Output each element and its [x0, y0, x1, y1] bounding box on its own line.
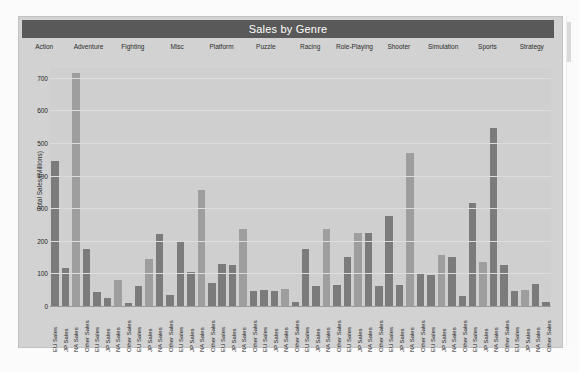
x-tick-cell: JP Sales [187, 306, 198, 352]
bar-racing-eu[interactable] [302, 249, 310, 306]
bar-action-eu[interactable] [51, 161, 59, 306]
y-tick-200: 200 [22, 237, 48, 244]
x-tick-label: NA Sales [157, 306, 163, 352]
x-tick-label: EU Sales [94, 306, 100, 352]
bar-puzzle-jp[interactable] [271, 291, 279, 306]
screenshot-root: Sales by Genre ActionAdventureFightingMi… [0, 0, 579, 372]
x-tick-label: Other Sales [420, 306, 426, 352]
bar-sports-jp[interactable] [479, 262, 487, 306]
bar-role-playing-eu[interactable] [344, 257, 352, 306]
x-tick-label: NA Sales [535, 306, 541, 352]
bar-fighting-na[interactable] [156, 234, 164, 306]
y-tick-100: 100 [22, 270, 48, 277]
x-tick-cell: NA Sales [197, 306, 208, 352]
bar-adventure-jp[interactable] [104, 298, 112, 306]
bar-fighting-jp[interactable] [145, 259, 153, 306]
bar-slot [259, 68, 269, 306]
vertical-scrollbar-thumb[interactable] [567, 22, 571, 62]
y-axis-label: Total Sales (Millions) [36, 151, 43, 211]
x-tick-cell: EU Sales [260, 306, 271, 352]
bar-puzzle-na[interactable] [281, 289, 289, 306]
x-tick-cell: EU Sales [386, 306, 397, 352]
bar-role-playing-other[interactable] [375, 286, 383, 306]
x-tick-cell: EU Sales [50, 306, 61, 352]
x-tick-cell: JP Sales [481, 306, 492, 352]
page-title: Sales by Genre [249, 23, 328, 35]
bar-slot [363, 68, 373, 306]
bar-platform-other[interactable] [250, 291, 258, 306]
bar-misc-other[interactable] [208, 283, 216, 306]
x-tick-label: Other Sales [504, 306, 510, 352]
x-tick-label: Other Sales [210, 306, 216, 352]
y-tick-300: 300 [22, 205, 48, 212]
bar-platform-eu[interactable] [218, 264, 226, 306]
x-tick-label: Other Sales [462, 306, 468, 352]
bar-slot [321, 68, 331, 306]
bar-slot [269, 68, 279, 306]
x-tick-cell: Other Sales [502, 306, 513, 352]
bar-simulation-na[interactable] [448, 257, 456, 306]
genre-header-sports: Sports [465, 39, 509, 54]
bar-simulation-eu[interactable] [427, 275, 435, 306]
bar-shooter-jp[interactable] [396, 285, 404, 306]
x-tick-cell: JP Sales [61, 306, 72, 352]
bar-racing-jp[interactable] [312, 286, 320, 306]
bar-misc-jp[interactable] [187, 272, 195, 306]
bar-strategy-eu[interactable] [511, 291, 519, 306]
x-tick-label: NA Sales [283, 306, 289, 352]
x-tick-cell: Other Sales [250, 306, 261, 352]
bar-action-other[interactable] [83, 249, 91, 306]
x-tick-label: JP Sales [147, 306, 153, 352]
plot-area: Total Sales (Millions) 01002003004005006… [22, 56, 554, 306]
bar-sports-eu[interactable] [469, 203, 477, 306]
x-tick-label: JP Sales [441, 306, 447, 352]
x-tick-label: EU Sales [178, 306, 184, 352]
bar-role-playing-jp[interactable] [354, 233, 362, 306]
bar-slot [499, 68, 509, 306]
x-tick-cell: NA Sales [281, 306, 292, 352]
vertical-scrollbar-track[interactable] [566, 16, 574, 346]
x-tick-label: Other Sales [252, 306, 258, 352]
bar-slot [426, 68, 436, 306]
bar-series [50, 68, 551, 306]
bar-strategy-jp[interactable] [521, 290, 529, 306]
bar-racing-other[interactable] [333, 285, 341, 306]
bar-puzzle-eu[interactable] [260, 290, 268, 306]
x-tick-label: Other Sales [126, 306, 132, 352]
bar-platform-jp[interactable] [229, 265, 237, 306]
x-tick-label: NA Sales [451, 306, 457, 352]
x-tick-cell: EU Sales [302, 306, 313, 352]
bar-sports-other[interactable] [500, 265, 508, 306]
x-tick-label: JP Sales [525, 306, 531, 352]
bar-slot [92, 68, 102, 306]
bar-role-playing-na[interactable] [365, 233, 373, 306]
bar-slot [217, 68, 227, 306]
bar-slot [81, 68, 91, 306]
bar-simulation-other[interactable] [459, 296, 467, 306]
x-tick-cell: Other Sales [208, 306, 219, 352]
gridline-700 [50, 78, 551, 79]
x-tick-label: JP Sales [273, 306, 279, 352]
x-tick-label: JP Sales [231, 306, 237, 352]
x-tick-label: EU Sales [220, 306, 226, 352]
bar-slot [196, 68, 206, 306]
bar-action-na[interactable] [72, 73, 80, 306]
gridline-600 [50, 110, 551, 111]
bar-fighting-other[interactable] [166, 295, 174, 306]
chart-title-bar: Sales by Genre [22, 20, 554, 38]
bar-slot [374, 68, 384, 306]
bar-sports-na[interactable] [490, 128, 498, 306]
bar-simulation-jp[interactable] [438, 255, 446, 306]
x-tick-label: Other Sales [294, 306, 300, 352]
bar-slot [290, 68, 300, 306]
bar-fighting-eu[interactable] [135, 286, 143, 306]
bar-strategy-na[interactable] [532, 284, 540, 306]
x-tick-cell: NA Sales [71, 306, 82, 352]
genre-header-misc: Misc [155, 39, 199, 54]
bar-shooter-other[interactable] [417, 273, 425, 306]
bar-shooter-eu[interactable] [385, 216, 393, 306]
x-tick-cell: Other Sales [376, 306, 387, 352]
bar-adventure-eu[interactable] [93, 292, 101, 306]
bar-adventure-na[interactable] [114, 280, 122, 306]
x-tick-label: NA Sales [199, 306, 205, 352]
